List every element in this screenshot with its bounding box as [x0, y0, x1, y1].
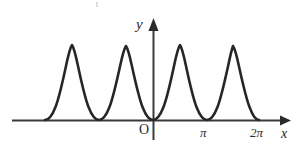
x-tick-label-pi: π: [200, 126, 207, 139]
origin-label: O: [139, 123, 149, 137]
x-axis-label: x: [281, 127, 287, 141]
x-tick-label-2pi: 2π: [250, 126, 263, 139]
y-axis-label: y: [136, 17, 143, 32]
curve-absolute-sine: [45, 45, 259, 120]
math-figure-absolute-sine: y x O π 2π: [0, 0, 300, 153]
y-axis-arrowhead: [149, 18, 159, 31]
x-axis-arrowhead: [280, 116, 291, 126]
